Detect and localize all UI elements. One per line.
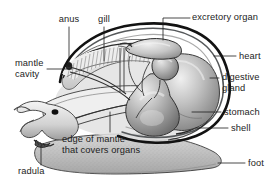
label-edge-of-mantle-line2: that covers organs <box>62 145 170 156</box>
label-mantle-cavity-line1: mantle <box>15 58 63 69</box>
label-edge-of-mantle: edge of mantle that covers organs <box>62 134 170 155</box>
label-stomach-text: stomach <box>224 107 260 117</box>
label-shell-text: shell <box>231 123 251 133</box>
label-digestive-gland: digestive gland <box>222 72 276 93</box>
label-gill: gill <box>90 14 118 25</box>
eye-spot <box>52 109 59 115</box>
label-stomach: stomach <box>224 107 260 118</box>
label-excretory-organ: excretory organ <box>192 12 258 23</box>
radula-shape <box>35 140 50 147</box>
label-edge-of-mantle-line1: edge of mantle <box>62 134 170 145</box>
label-digestive-gland-line1: digestive <box>222 72 276 83</box>
label-digestive-gland-line2: gland <box>222 83 276 94</box>
label-foot: foot <box>248 158 264 169</box>
label-excretory-organ-text: excretory organ <box>192 12 258 22</box>
label-anus: anus <box>53 14 85 25</box>
label-mantle-cavity-line2: cavity <box>15 69 63 80</box>
leader-dot-anus <box>67 63 71 67</box>
snail-anatomy-diagram: anus gill excretory organ mantle cavity … <box>0 0 277 184</box>
label-radula-text: radula <box>18 166 44 176</box>
label-shell: shell <box>231 123 251 134</box>
label-gill-text: gill <box>98 14 110 24</box>
label-heart-text: heart <box>239 51 261 61</box>
label-heart: heart <box>239 51 261 62</box>
label-mantle-cavity: mantle cavity <box>15 58 63 79</box>
label-radula: radula <box>18 166 44 177</box>
label-anus-text: anus <box>59 14 80 24</box>
label-foot-text: foot <box>248 158 264 168</box>
